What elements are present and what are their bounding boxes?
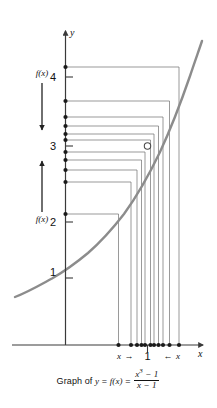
x-axis-label: x [197,348,203,359]
value-dot [63,180,67,184]
y-tick-label-3: 3 [50,140,56,152]
graph-canvas: y x 4 3 2 1 f(x) f(x) x → 1 ← x [0,0,217,408]
value-dot [63,212,67,216]
vertical-drop-lines [119,67,180,345]
x-left-label: x [116,351,121,361]
caption-fx-arg: (x) [112,376,122,386]
figure-container: y x 4 3 2 1 f(x) f(x) x → 1 ← x Graph of… [0,0,217,408]
removable-discontinuity-hole [144,143,150,149]
value-dot [63,99,67,103]
figure-caption: Graph of y = f(x) = x3 − 1x − 1 [0,370,217,390]
x-left-arrow-icon: → [125,351,134,361]
fx-lower-label: f(x) [36,214,49,224]
x-right-label: x [175,351,180,361]
value-dot [177,343,181,347]
value-dot [152,343,156,347]
y-tick-label-1: 1 [50,266,56,278]
function-curve [15,41,202,297]
caption-fraction: x3 − 1x − 1 [134,370,159,390]
y-tick-label-2: 2 [50,216,56,228]
value-dot [156,343,160,347]
caption-equals-1: = [99,376,110,386]
y-axis-label: y [69,27,75,38]
value-dot [116,343,120,347]
axes [12,31,203,345]
value-dot [63,168,67,172]
value-dot [63,65,67,69]
value-dot [167,343,171,347]
value-dot [63,132,67,136]
value-dot [63,138,67,142]
value-dot [161,343,165,347]
numerator-tail: − 1 [143,369,158,379]
value-dot [63,124,67,128]
value-dot [143,343,147,347]
value-dot [63,115,67,119]
x-tick-label-1: 1 [144,350,150,362]
y-tick-label-4: 4 [50,71,56,83]
caption-prefix: Graph of [57,376,95,386]
value-dot [63,158,67,162]
horizontal-projection-lines [66,67,180,214]
value-dot [63,150,67,154]
value-dot [129,343,133,347]
x-right-arrow-icon: ← [164,351,173,361]
fx-upper-label: f(x) [36,68,49,78]
fraction-denominator: x − 1 [134,381,159,391]
value-dot [135,343,139,347]
y-axis-ticks [66,77,74,278]
caption-equals-2: = [123,376,134,386]
